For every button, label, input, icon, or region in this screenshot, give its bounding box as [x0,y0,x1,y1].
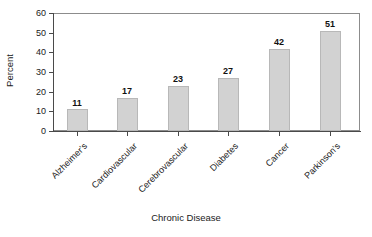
bar-alzheimers[interactable] [67,109,88,131]
x-tick-mark [178,132,179,136]
y-tick-label: 30 [28,68,46,77]
x-axis-title: Chronic Disease [0,212,372,223]
y-tick-mark [49,111,53,112]
y-tick-label: 50 [28,29,46,38]
bar-value-cardiovascular: 17 [112,87,142,96]
bar-parkinsons[interactable] [320,31,341,131]
bar-cerebrovascular[interactable] [168,86,189,131]
bar-value-diabetes: 27 [213,67,243,76]
y-tick-label: 40 [28,48,46,57]
y-axis-title: Percent [4,41,15,101]
bar-value-cerebrovascular: 23 [163,75,193,84]
x-axis-line [53,131,361,132]
y-tick-label: 10 [28,107,46,116]
plot-area [53,13,360,131]
x-tick-mark [330,132,331,136]
x-tick-mark [77,132,78,136]
bar-chart: 60 50 40 30 20 10 0 11 17 23 27 42 51 Al… [0,0,372,237]
x-tick-mark [279,132,280,136]
y-tick-label: 20 [28,88,46,97]
bar-diabetes[interactable] [218,78,239,131]
y-tick-label: 0 [28,127,46,136]
y-tick-mark [49,52,53,53]
y-tick-label: 60 [28,9,46,18]
bar-cardiovascular[interactable] [117,98,138,131]
bar-cancer[interactable] [269,49,290,132]
y-tick-mark [49,72,53,73]
y-tick-mark [49,13,53,14]
y-tick-mark [49,33,53,34]
y-tick-mark [49,92,53,93]
bar-value-alzheimers: 11 [62,99,92,108]
y-axis-line [53,13,54,132]
x-tick-mark [228,132,229,136]
bar-value-cancer: 42 [264,38,294,47]
bar-value-parkinsons: 51 [315,20,345,29]
x-tick-mark [127,132,128,136]
